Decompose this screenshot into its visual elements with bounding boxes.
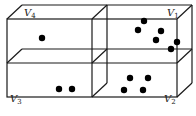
- point-v3: [69, 86, 75, 92]
- depth-edge-bottom-mid: [92, 83, 107, 97]
- point-v2: [145, 75, 151, 81]
- depth-edge-center: [92, 49, 107, 63]
- depth-edge-mid-right: [177, 49, 192, 63]
- point-v1: [168, 46, 174, 52]
- box-diagram: V4 V1 V3 V2: [0, 0, 196, 116]
- region-label-v3: V3: [10, 93, 22, 106]
- depth-edge-top-right: [177, 5, 192, 19]
- region-label-v2: V2: [164, 93, 176, 106]
- box-diagram-svg: V4 V1 V3 V2: [0, 0, 196, 116]
- depth-edge-top-mid: [92, 5, 107, 19]
- point-v3: [56, 86, 62, 92]
- point-v1: [153, 37, 159, 43]
- point-v4: [39, 35, 45, 41]
- depth-edge-mid-left: [7, 49, 22, 63]
- depth-edge-top-left: [7, 5, 22, 19]
- region-label-v4: V4: [24, 7, 36, 20]
- region-label-v1: V1: [167, 7, 179, 20]
- point-v1: [141, 18, 147, 24]
- point-v2: [121, 87, 127, 93]
- point-v1: [174, 39, 180, 45]
- point-v1: [135, 27, 141, 33]
- point-v1: [158, 28, 164, 34]
- depth-edge-bottom-right: [177, 83, 192, 97]
- point-v2: [127, 75, 133, 81]
- point-v2: [140, 87, 146, 93]
